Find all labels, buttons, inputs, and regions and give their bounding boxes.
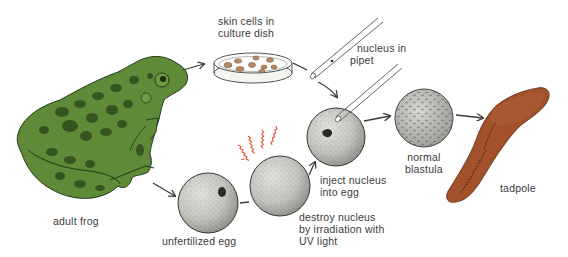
label-normal-blastula: normal blastula bbox=[405, 151, 443, 175]
label-line: blastula bbox=[405, 163, 443, 175]
arrow-injected-to-blastula bbox=[364, 116, 390, 121]
connector-egg-to-irradiated bbox=[240, 202, 249, 203]
normal-blastula bbox=[395, 89, 453, 147]
culture-dish bbox=[214, 53, 292, 83]
label-line: nucleus in bbox=[357, 42, 406, 54]
label-unfertilized-egg: unfertilized egg bbox=[162, 235, 236, 247]
arrow-pipet-to-egg bbox=[318, 82, 337, 97]
arrow-frog-to-dish bbox=[183, 64, 204, 70]
label-line: normal bbox=[405, 151, 443, 163]
label-line: into egg bbox=[320, 186, 386, 198]
label-line: by irradiation with bbox=[299, 223, 385, 235]
arrow-blastula-to-tadpole bbox=[456, 115, 483, 118]
label-adult-frog: adult frog bbox=[53, 215, 99, 227]
label-inject-nucleus: inject nucleus into egg bbox=[320, 174, 386, 198]
unfertilized-egg bbox=[178, 173, 238, 233]
label-line: UV light bbox=[299, 235, 385, 247]
label-tadpole: tadpole bbox=[500, 182, 536, 194]
uv-rays bbox=[238, 126, 277, 161]
label-line: skin cells in bbox=[218, 15, 274, 27]
arrow-irradiated-to-injected bbox=[309, 162, 315, 175]
label-nucleus-in-pipet: nucleus in pipet bbox=[357, 42, 406, 66]
arrow-dish-to-pipet bbox=[293, 63, 307, 70]
label-line: pipet bbox=[350, 54, 406, 66]
injected-egg bbox=[307, 108, 365, 166]
label-destroy-nucleus: destroy nucleus by irradiation with UV l… bbox=[299, 211, 385, 247]
adult-frog-illustration bbox=[17, 56, 187, 198]
label-skin-cells: skin cells in culture dish bbox=[218, 15, 274, 39]
arrow-frog-to-egg bbox=[153, 183, 175, 196]
label-line: inject nucleus bbox=[320, 174, 386, 186]
frog-cloning-diagram: skin cells in culture dish nucleus in pi… bbox=[0, 0, 568, 257]
label-line: culture dish bbox=[218, 27, 274, 39]
label-line: destroy nucleus bbox=[299, 211, 385, 223]
irradiated-egg bbox=[250, 156, 310, 216]
